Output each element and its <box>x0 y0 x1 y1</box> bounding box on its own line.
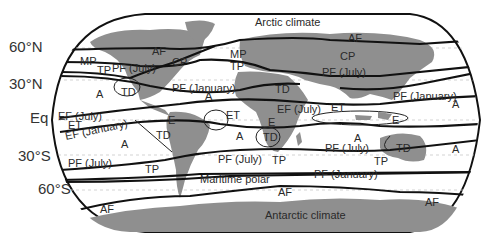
label-e: E <box>168 114 175 126</box>
label-af: AF <box>348 32 362 44</box>
lat-label-30n: 30°N <box>9 75 43 92</box>
label-a: A <box>236 130 244 142</box>
label-a: A <box>452 98 460 110</box>
label-tp: TP <box>272 154 286 166</box>
label-tp: TP <box>374 155 388 167</box>
label-af: AF <box>100 203 114 215</box>
label-a: A <box>96 88 104 100</box>
label-td: TD <box>263 131 278 143</box>
label-pf-july: PF (July) <box>322 66 366 78</box>
label-ef-july: EF (July) <box>277 103 321 115</box>
lat-label-60s: 60°S <box>38 180 71 197</box>
label-mp: MP <box>80 55 97 67</box>
label-pf-july: PF (July) <box>68 157 112 169</box>
label-pf-july: PF (July) <box>112 62 156 74</box>
label-et: ET <box>226 109 240 121</box>
label-a: A <box>452 143 460 155</box>
label-td: TD <box>396 142 411 154</box>
label-et: ET <box>331 101 345 113</box>
label-cp: CP <box>172 56 187 68</box>
label-tp: TP <box>230 60 244 72</box>
label-td: TD <box>156 129 171 141</box>
label-td: TD <box>275 83 290 95</box>
label-a: A <box>121 138 129 150</box>
label-mp: MP <box>230 48 247 60</box>
air-mass-map: 60°N 30°N Eq 30°S 60°S Arctic climate An… <box>0 0 490 239</box>
label-af: AF <box>152 45 166 57</box>
label-pf-january: PF (January) <box>172 82 236 94</box>
lat-label-60n: 60°N <box>9 38 43 55</box>
label-pf-january: PF (January) <box>314 168 378 180</box>
label-pf-july: PF (July) <box>325 142 369 154</box>
lat-label-30s: 30°S <box>18 147 51 164</box>
label-e: E <box>268 116 275 128</box>
label-tp: TP <box>97 64 111 76</box>
label-et: ET <box>68 119 82 131</box>
label-tp: TP <box>145 163 159 175</box>
label-pf-july: PF (July) <box>218 153 262 165</box>
label-af: AF <box>425 196 439 208</box>
antarctic-climate-label: Antarctic climate <box>265 209 346 221</box>
label-e: E <box>392 114 399 126</box>
label-af: AF <box>278 186 292 198</box>
label-a: A <box>354 132 362 144</box>
arctic-climate-label: Arctic climate <box>255 16 320 28</box>
label-cp: CP <box>340 50 355 62</box>
maritime-polar-label: Maritime polar <box>200 173 270 185</box>
lat-label-eq: Eq <box>30 109 48 126</box>
label-a: A <box>205 90 213 102</box>
label-pf-january: PF (January) <box>393 90 457 102</box>
label-td: TD <box>121 86 136 98</box>
